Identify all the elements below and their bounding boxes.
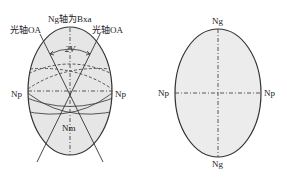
optic-axis-left-label: 光轴OA [10, 26, 41, 35]
ng-top-label: Ng [212, 17, 223, 26]
indicatrix-diagrams [0, 0, 287, 181]
np-left-label: Np [11, 90, 22, 99]
nm-label: Nm [62, 124, 76, 133]
ng-bottom-label: Ng [212, 160, 223, 169]
right-indicatrix [175, 29, 261, 157]
np-left-label-right: Np [158, 89, 169, 98]
np-right-label: Np [115, 90, 126, 99]
bxa-title: Ng轴为Bxa [48, 15, 92, 24]
np-right-label-right: Np [264, 89, 275, 98]
optic-axis-right-label: 光轴OA [92, 26, 123, 35]
angle-2v-label: 2V [65, 45, 75, 54]
